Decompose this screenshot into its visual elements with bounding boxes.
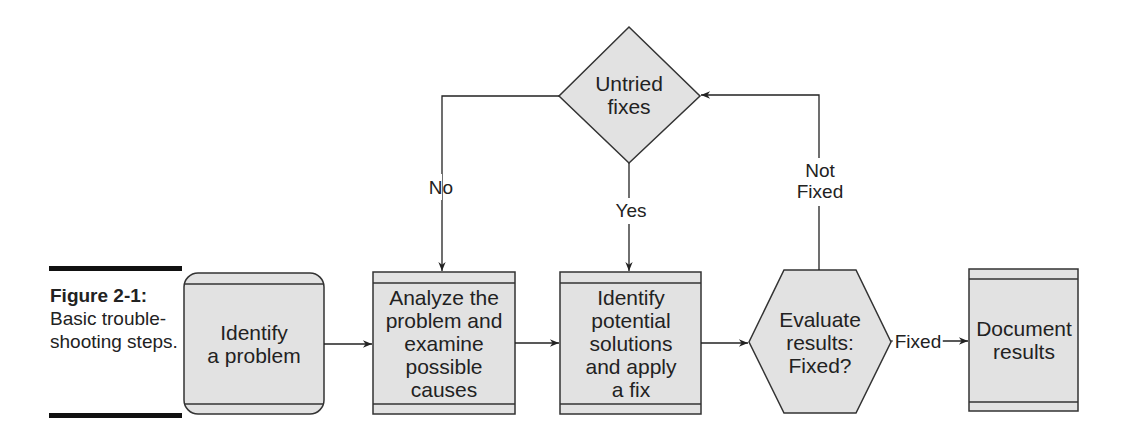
node-untried-fixes-label: Untried fixes — [595, 72, 663, 118]
node-evaluate-label: Evaluate results: Fixed? — [779, 308, 861, 377]
node-document-label: Document results — [976, 317, 1072, 363]
edge-untried-no — [442, 96, 559, 271]
edge-label-fixed: Fixed — [893, 331, 943, 352]
node-identify-problem-label: Identify a problem — [207, 321, 300, 367]
edge-label-yes: Yes — [616, 200, 647, 221]
node-identify-solutions-label: Identify potential solutions and apply a… — [585, 286, 676, 401]
edge-label-no: No — [429, 177, 453, 198]
edge-label-not-fixed: Not Fixed — [797, 160, 843, 202]
flowchart-canvas — [0, 0, 1121, 436]
node-analyze-label: Analyze the problem and examine possible… — [386, 286, 503, 401]
